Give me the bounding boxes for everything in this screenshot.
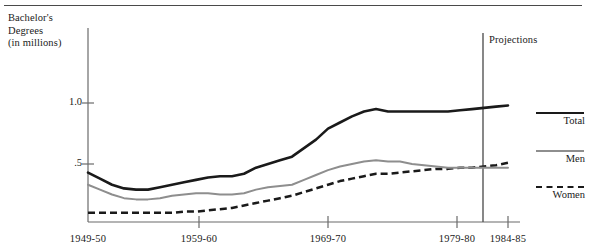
legend-item-men: Men (534, 150, 586, 164)
legend-swatch-men-icon (536, 150, 584, 152)
legend-item-total: Total (534, 112, 586, 126)
legend-swatch-total-icon (536, 112, 584, 114)
legend-label-women: Women (534, 189, 586, 200)
chart-figure: Bachelor's Degrees (in millions) Project… (0, 0, 589, 252)
legend-label-men: Men (534, 153, 586, 164)
plot-area (0, 0, 589, 252)
legend-swatch-women-icon (536, 186, 584, 188)
series-line-total (88, 105, 508, 189)
legend-item-women: Women (534, 186, 586, 200)
legend-label-total: Total (534, 115, 586, 126)
